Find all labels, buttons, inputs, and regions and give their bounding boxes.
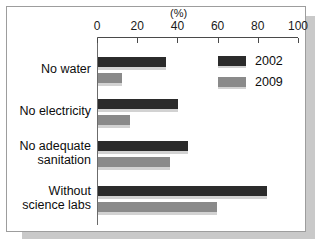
category-label-line: sanitation <box>19 153 91 167</box>
x-tick-label: 0 <box>94 19 101 33</box>
category-label: No water <box>41 62 91 76</box>
bar-shadow <box>98 83 122 86</box>
legend-swatch-2002 <box>218 56 246 66</box>
category-label: No electricity <box>19 104 91 118</box>
bar-chart-figure: (%) 020406080100 No waterNo electricityN… <box>0 0 323 249</box>
x-tick-mark <box>97 38 98 43</box>
axis-unit-label: (%) <box>170 7 187 19</box>
category-label-line: science labs <box>22 198 91 212</box>
legend-swatch-shadow <box>218 66 246 68</box>
bar-2009-without-science-labs <box>98 202 217 212</box>
x-tick-label: 60 <box>211 19 224 33</box>
x-tick-mark <box>218 38 219 43</box>
legend-label: 2002 <box>255 54 283 68</box>
x-tick-label: 20 <box>131 19 144 33</box>
legend-swatch-shadow <box>218 87 246 89</box>
x-tick-mark <box>137 38 138 43</box>
bar-2002-no-adequate-sanitation <box>98 141 188 151</box>
legend-swatch-2009 <box>218 77 246 87</box>
bar-shadow <box>98 125 130 128</box>
category-label: Withoutscience labs <box>22 184 91 212</box>
bar-shadow <box>98 67 166 70</box>
bar-2009-no-adequate-sanitation <box>98 157 170 167</box>
x-tick-mark <box>177 38 178 43</box>
x-tick-label: 40 <box>171 19 184 33</box>
bar-shadow <box>98 212 217 215</box>
bar-2002-no-water <box>98 57 166 67</box>
bar-2009-no-water <box>98 73 122 83</box>
bar-2002-without-science-labs <box>98 186 267 196</box>
plot-area: (%) 020406080100 No waterNo electricityN… <box>0 0 323 249</box>
bar-shadow <box>98 196 267 199</box>
x-tick-label: 80 <box>251 19 264 33</box>
x-axis-line <box>97 37 298 38</box>
bar-2002-no-electricity <box>98 99 178 109</box>
category-label-line: No water <box>41 62 91 76</box>
category-label-line: Without <box>22 184 91 198</box>
category-label-line: No electricity <box>19 104 91 118</box>
category-label-line: No adequate <box>19 139 91 153</box>
bar-shadow <box>98 167 170 170</box>
x-tick-mark <box>258 38 259 43</box>
bar-shadow <box>98 151 188 154</box>
bar-shadow <box>98 109 178 112</box>
x-tick-label: 100 <box>288 19 308 33</box>
legend-label: 2009 <box>255 75 283 89</box>
category-label: No adequatesanitation <box>19 139 91 167</box>
x-tick-mark <box>298 38 299 43</box>
bar-2009-no-electricity <box>98 115 130 125</box>
